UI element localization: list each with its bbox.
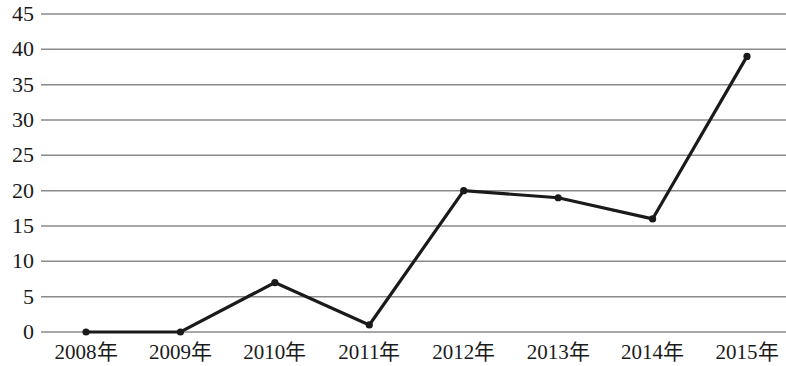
data-point-2012年 <box>460 187 467 194</box>
chart-plot-area <box>0 0 786 366</box>
y-tick-label-0: 0 <box>0 321 34 343</box>
data-point-2015年 <box>743 53 750 60</box>
x-tick-label-2009年: 2009年 <box>149 340 212 364</box>
data-point-markers <box>82 53 750 336</box>
x-tick-label-2008年: 2008年 <box>55 340 118 364</box>
y-tick-label-45: 45 <box>0 3 34 25</box>
x-tick-label-2014年: 2014年 <box>621 340 684 364</box>
line-chart: 051015202530354045 2008年2009年2010年2011年2… <box>0 0 786 366</box>
y-tick-label-15: 15 <box>0 215 34 237</box>
y-tick-label-10: 10 <box>0 250 34 272</box>
data-point-2013年 <box>555 194 562 201</box>
x-tick-label-2011年: 2011年 <box>338 340 400 364</box>
gridlines <box>41 14 786 332</box>
x-tick-label-2015年: 2015年 <box>716 340 779 364</box>
x-tick-label-2010年: 2010年 <box>243 340 306 364</box>
x-tick-label-2013年: 2013年 <box>527 340 590 364</box>
x-tick-label-2012年: 2012年 <box>432 340 495 364</box>
y-tick-label-25: 25 <box>0 144 34 166</box>
data-point-2009年 <box>177 328 184 335</box>
data-point-2008年 <box>82 328 89 335</box>
data-point-2011年 <box>366 321 373 328</box>
y-tick-label-40: 40 <box>0 38 34 60</box>
data-point-2014年 <box>649 215 656 222</box>
series-line <box>86 56 747 332</box>
data-point-2010年 <box>271 279 278 286</box>
y-tick-label-20: 20 <box>0 180 34 202</box>
y-tick-label-30: 30 <box>0 109 34 131</box>
y-tick-label-5: 5 <box>0 286 34 308</box>
y-tick-label-35: 35 <box>0 74 34 96</box>
